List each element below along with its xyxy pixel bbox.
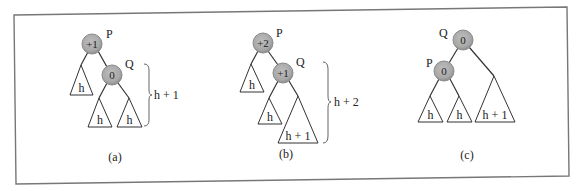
avl-rotation-diagram: h h h +1 P 0 Q h + 1 (a) bbox=[0, 0, 581, 191]
node-q: 0 Q bbox=[102, 57, 134, 85]
node-p: +1 P bbox=[82, 27, 113, 54]
subtree-triangle: h bbox=[70, 65, 93, 95]
subtree-label: h bbox=[127, 113, 133, 127]
panel-caption: (b) bbox=[279, 147, 293, 161]
height-label: h + 1 bbox=[154, 88, 179, 102]
subtree-triangle: h bbox=[258, 98, 282, 124]
subtree-triangle: h bbox=[418, 96, 443, 122]
subtree-triangle: h bbox=[88, 98, 112, 127]
balance-factor: +1 bbox=[86, 38, 98, 50]
node-q: 0 Q bbox=[439, 26, 473, 50]
subtree-label: h bbox=[97, 113, 103, 127]
subtree-triangle: h + 1 bbox=[475, 76, 515, 122]
node-label: P bbox=[106, 27, 113, 41]
balance-factor: +2 bbox=[257, 37, 269, 49]
subtree-label: h + 1 bbox=[286, 129, 311, 143]
node-label: Q bbox=[125, 57, 134, 71]
subtree-label: h bbox=[249, 78, 255, 92]
panel-b: h h h + 1 +2 P +1 Q h + 2 (b) bbox=[240, 26, 359, 161]
subtree-label: h bbox=[79, 81, 85, 95]
node-label: P bbox=[426, 56, 433, 70]
node-label: Q bbox=[296, 55, 305, 69]
node-q: +1 Q bbox=[273, 55, 305, 83]
node-p: 0 P bbox=[426, 56, 454, 81]
panel-caption: (c) bbox=[460, 148, 473, 162]
node-label: Q bbox=[439, 26, 448, 40]
node-p: +2 P bbox=[253, 26, 283, 53]
panel-a: h h h +1 P 0 Q h + 1 (a) bbox=[70, 27, 179, 164]
subtree-triangle: h bbox=[117, 98, 142, 127]
subtree-label: h bbox=[457, 108, 463, 122]
balance-factor: 0 bbox=[109, 69, 115, 81]
height-brace bbox=[323, 62, 331, 143]
subtree-triangle: h bbox=[240, 64, 264, 92]
panel-c: h h h + 1 0 Q 0 P (c) bbox=[418, 26, 515, 162]
balance-factor: 0 bbox=[441, 65, 447, 77]
subtree-triangle: h + 1 bbox=[278, 96, 318, 143]
balance-factor: 0 bbox=[460, 34, 466, 46]
subtree-label: h bbox=[267, 110, 273, 124]
balance-factor: +1 bbox=[277, 67, 289, 79]
height-brace bbox=[144, 64, 152, 126]
subtree-label: h + 1 bbox=[483, 108, 508, 122]
subtree-label: h bbox=[428, 108, 434, 122]
height-label: h + 2 bbox=[334, 95, 359, 109]
subtree-triangle: h bbox=[447, 96, 472, 122]
node-label: P bbox=[276, 26, 283, 40]
panel-caption: (a) bbox=[108, 150, 121, 164]
